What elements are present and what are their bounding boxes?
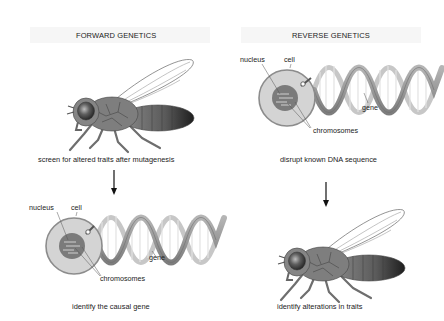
reverse-gene-label: gene	[362, 103, 378, 112]
reverse-cell-label: cell	[284, 55, 295, 64]
down-arrow-icon	[322, 182, 330, 208]
fly-illustration	[273, 206, 413, 306]
reverse-step2-caption: identify alterations in traits	[277, 302, 362, 311]
reverse-step1-caption: disrupt known DNA sequence	[280, 155, 377, 164]
reverse-chromosomes-label: chromosomes	[313, 126, 358, 135]
reverse-nucleus-label: nucleus	[240, 55, 265, 64]
